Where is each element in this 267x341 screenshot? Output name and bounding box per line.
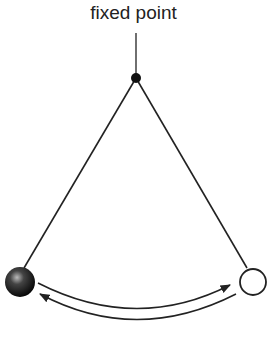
bob-left (5, 267, 35, 297)
arrow-left-icon (40, 294, 236, 320)
bob-right (240, 269, 266, 295)
swing-arrows (38, 283, 236, 320)
strings (24, 78, 247, 268)
arrow-right-icon (38, 283, 230, 309)
pendulum-diagram (0, 0, 267, 341)
fixed-point-dot (131, 73, 141, 83)
